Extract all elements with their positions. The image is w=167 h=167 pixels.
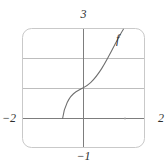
y-axis-bottom-label: −1 (0, 150, 167, 162)
curve-label-f: f (116, 33, 119, 45)
x-axis-tick-mark (124, 118, 126, 120)
x-axis-left-label: −2 (2, 112, 16, 124)
function-graph-figure: 3 −1 −2 2 f (0, 0, 167, 167)
function-curve (63, 29, 124, 118)
plot-canvas (0, 0, 167, 167)
y-axis-top-label: 3 (0, 8, 167, 20)
x-axis-right-label: 2 (158, 112, 164, 124)
